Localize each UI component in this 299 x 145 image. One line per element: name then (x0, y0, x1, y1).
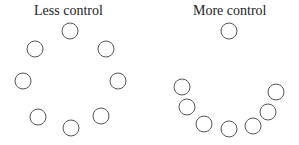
circle (62, 23, 78, 39)
circle (221, 23, 237, 39)
circle (98, 41, 114, 57)
circle (196, 116, 212, 132)
less-control-group (15, 23, 126, 136)
more-control-group (174, 23, 284, 137)
circle (245, 118, 261, 134)
circle (110, 73, 126, 89)
circle (30, 109, 46, 125)
circle (260, 104, 276, 120)
circles-diagram (0, 0, 299, 145)
circle (93, 108, 109, 124)
circle (174, 79, 190, 95)
circle (27, 41, 43, 57)
circle (179, 99, 195, 115)
circle (15, 73, 31, 89)
circle (268, 84, 284, 100)
circle (63, 120, 79, 136)
circle (221, 121, 237, 137)
